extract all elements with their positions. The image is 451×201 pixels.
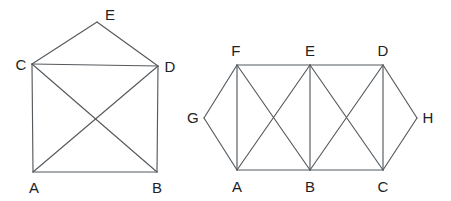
vertex-label-right-graph-G: G [187,110,199,125]
vertex-label-left-graph-A: A [29,180,39,195]
graph-edge-AC [32,64,33,172]
vertex-label-right-graph-E: E [305,43,315,58]
graph-canvas [0,0,451,201]
vertex-label-right-graph-A: A [232,179,242,194]
vertex-label-right-graph-D: D [377,43,388,58]
graph-edge-CD [32,64,158,66]
vertex-label-right-graph-H: H [422,110,433,125]
graph-edge-AG [204,118,237,170]
vertex-label-left-graph-C: C [15,57,26,72]
edge-group-right-graph [204,65,417,170]
graph-edge-HD [383,65,417,118]
vertex-label-right-graph-F: F [231,43,240,58]
graph-edge-DE [97,22,158,66]
vertex-label-right-graph-B: B [305,179,315,194]
figure-root: ABCDE ABCDEFGH [0,0,451,201]
graph-edge-BC [32,64,157,172]
graph-edge-GF [204,65,237,118]
graph-edge-CE [32,22,97,64]
vertex-label-left-graph-B: B [152,180,162,195]
graph-edge-BD [157,66,158,172]
edge-group-left-graph [32,22,158,172]
vertex-label-right-graph-C: C [377,179,388,194]
graph-edge-CH [383,118,417,170]
vertex-label-left-graph-D: D [164,59,175,74]
vertex-label-left-graph-E: E [105,7,115,22]
